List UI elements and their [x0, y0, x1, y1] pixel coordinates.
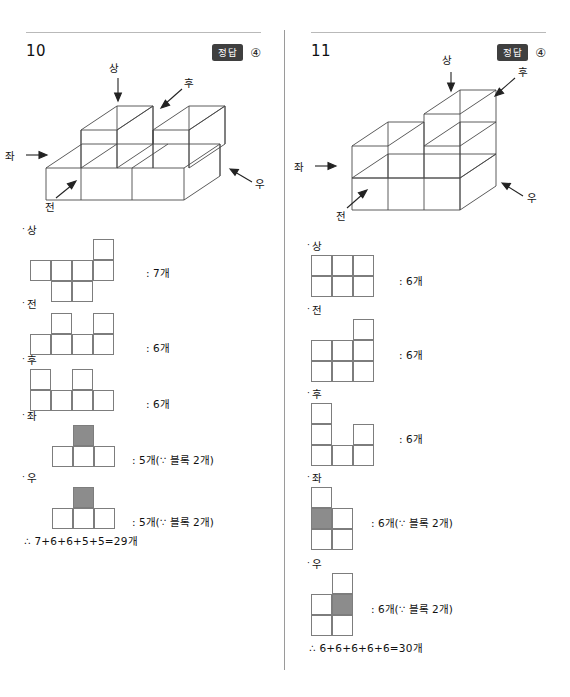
figure-label-left: 좌	[5, 148, 15, 163]
view-grid-top-11	[311, 255, 374, 297]
grid-cell-shaded	[73, 487, 94, 508]
grid-cell-shaded	[311, 508, 332, 529]
view-count: : 5개(∵ 블록 2개)	[132, 452, 214, 467]
grid-cell-shaded	[332, 594, 353, 615]
view-count: : 6개	[399, 347, 423, 362]
view-label: ·상	[22, 222, 232, 237]
figure-label-right: 우	[255, 176, 265, 191]
view-section-front-11: ·전 : 6개	[307, 302, 517, 389]
grid-cell	[52, 508, 73, 529]
conclusion-line-10: ∴ 7+6+6+5+5=29개	[24, 533, 138, 548]
conclusion-line-11: ∴ 6+6+6+6+6=30개	[309, 640, 423, 655]
problem-number: 11	[311, 42, 331, 60]
view-section-right-10: ·우 : 5개(∵ 블록 2개)	[22, 470, 262, 535]
view-section-right-11: ·우 : 6개(∵ 블록 2개)	[307, 556, 547, 643]
figure-label-right: 우	[527, 190, 537, 205]
view-section-rear-11: ·후 : 6개	[307, 386, 517, 473]
grid-cell	[332, 361, 353, 382]
grid-cell	[72, 369, 93, 390]
answer-badge-group: 정답 ④	[497, 44, 546, 61]
view-grid-top-10	[30, 239, 114, 302]
grid-cell	[332, 615, 353, 636]
grid-cell	[94, 446, 115, 467]
view-grid-right-11	[311, 573, 353, 636]
grid-cell	[93, 260, 114, 281]
grid-cell	[30, 369, 51, 390]
grid-cell	[73, 508, 94, 529]
grid-cell	[52, 446, 73, 467]
grid-cell	[311, 276, 332, 297]
view-label: ·상	[307, 238, 517, 253]
grid-cell	[332, 340, 353, 361]
grid-cell	[93, 239, 114, 260]
view-count: : 6개(∵ 블록 2개)	[371, 515, 453, 530]
view-grid-left-11	[311, 487, 353, 550]
bullet-icon: ·	[307, 304, 310, 314]
grid-cell	[353, 276, 374, 297]
view-grid-front-10	[30, 313, 114, 355]
header-divider	[26, 32, 261, 33]
grid-cell	[353, 340, 374, 361]
grid-cell	[94, 508, 115, 529]
header-divider	[311, 32, 546, 33]
view-grid-left-10	[52, 425, 115, 467]
grid-cell	[311, 424, 332, 445]
grid-cell	[311, 255, 332, 276]
grid-cell-shaded	[73, 425, 94, 446]
view-count: : 5개(∵ 블록 2개)	[132, 514, 214, 529]
view-count: : 6개	[399, 273, 423, 288]
view-label: ·후	[22, 352, 232, 367]
grid-cell	[311, 445, 332, 466]
grid-cell	[311, 615, 332, 636]
bullet-icon: ·	[22, 410, 25, 420]
grid-cell	[332, 276, 353, 297]
grid-cell	[51, 260, 72, 281]
grid-cell	[311, 340, 332, 361]
grid-cell	[311, 487, 332, 508]
isometric-figure-11: 상 후 좌 우 전	[309, 72, 545, 212]
view-label: ·후	[307, 386, 517, 401]
grid-cell	[73, 446, 94, 467]
grid-cell	[332, 508, 353, 529]
figure-label-front: 전	[336, 208, 346, 223]
view-count: : 6개	[399, 431, 423, 446]
problem-number: 10	[26, 42, 46, 60]
view-section-top-11: ·상 : 6개	[307, 238, 517, 303]
view-section-top-10: ·상 : 7개	[22, 222, 232, 301]
grid-cell	[30, 260, 51, 281]
view-label: ·전	[22, 296, 232, 311]
bullet-icon: ·	[307, 388, 310, 398]
figure-label-front: 전	[45, 199, 55, 214]
view-section-left-10: ·좌 : 5개(∵ 블록 2개)	[22, 408, 262, 473]
problem-column-10: 10 정답 ④	[0, 0, 285, 697]
bullet-icon: ·	[307, 558, 310, 568]
answer-sheet-page: 10 정답 ④	[0, 0, 570, 697]
grid-cell	[51, 313, 72, 334]
view-label: ·좌	[22, 408, 262, 423]
grid-cell	[72, 260, 93, 281]
grid-cell	[353, 255, 374, 276]
grid-cell	[353, 361, 374, 382]
isometric-figure-10: 상 후 좌 우 전	[24, 72, 260, 204]
answer-choice-mark: ④	[535, 46, 546, 60]
view-count: : 6개(∵ 블록 2개)	[371, 601, 453, 616]
view-grid-front-11	[311, 319, 374, 382]
bullet-icon: ·	[22, 224, 25, 234]
grid-cell	[332, 255, 353, 276]
grid-cell	[93, 313, 114, 334]
bullet-icon: ·	[22, 298, 25, 308]
bullet-icon: ·	[307, 472, 310, 482]
grid-cell	[311, 529, 332, 550]
grid-cell	[353, 424, 374, 445]
status-badge: 정답	[212, 44, 243, 61]
bullet-icon: ·	[22, 354, 25, 364]
answer-choice-mark: ④	[250, 46, 261, 60]
figure-label-top: 상	[109, 60, 119, 75]
grid-cell	[311, 594, 332, 615]
grid-cell	[332, 573, 353, 594]
figure-label-rear: 후	[518, 64, 528, 79]
grid-cell	[353, 319, 374, 340]
figure-label-top: 상	[442, 52, 452, 67]
figure-label-rear: 후	[184, 75, 194, 90]
view-section-left-11: ·좌 : 6개(∵ 블록 2개)	[307, 470, 547, 557]
